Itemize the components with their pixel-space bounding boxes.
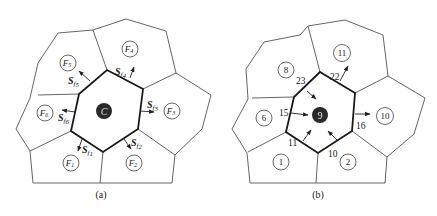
mesh-outer-boundary: [16, 19, 211, 183]
svg-text:1: 1: [279, 157, 284, 167]
svg-text:11: 11: [288, 138, 297, 148]
panel-a: C F1 F2 F3 F4 F5 F6 Sf1: [16, 19, 211, 201]
svg-text:9: 9: [318, 110, 323, 121]
svg-text:Sf6: Sf6: [58, 112, 70, 126]
face-vector-s-f4: Sf4: [115, 66, 134, 80]
face-vector-s-f1: Sf1: [78, 139, 93, 158]
neighbor-f3: F3: [164, 103, 180, 119]
neighbor-2: 2: [340, 154, 356, 170]
neighbor-11: 11: [334, 45, 351, 62]
caption-b: (b): [312, 189, 324, 201]
svg-text:C: C: [101, 106, 108, 117]
face-vector-s-f3: Sf3: [140, 99, 159, 113]
caption-a: (a): [95, 189, 106, 201]
neighbor-f1: F1: [63, 155, 79, 171]
svg-text:16: 16: [356, 121, 366, 131]
svg-text:Sf5: Sf5: [68, 75, 80, 89]
svg-text:8: 8: [284, 65, 289, 75]
svg-text:10: 10: [381, 111, 391, 121]
face-arrow-15: 15: [279, 108, 308, 118]
svg-text:6: 6: [262, 113, 267, 123]
svg-text:23: 23: [296, 76, 306, 86]
face-arrow-16: 16: [355, 114, 370, 131]
neighbor-1: 1: [273, 154, 289, 170]
neighbor-f2: F2: [126, 155, 142, 171]
face-vector-s-f2: Sf2: [124, 137, 143, 151]
center-node-9: 9: [312, 107, 328, 123]
face-arrow-22: 22: [330, 66, 348, 82]
panel-b: 9 1 2 10 11 8 6 11: [232, 20, 425, 201]
neighbor-6: 6: [256, 110, 272, 126]
svg-text:Sf4: Sf4: [115, 66, 127, 80]
neighbor-f5: F5: [60, 55, 76, 71]
mesh-internal-edges-b: [248, 26, 388, 183]
svg-text:10: 10: [328, 149, 338, 159]
svg-text:11: 11: [338, 48, 347, 58]
neighbor-f4: F4: [122, 41, 138, 57]
neighbor-f6: F6: [37, 105, 53, 121]
svg-text:Sf3: Sf3: [147, 99, 159, 113]
svg-text:22: 22: [330, 72, 340, 82]
svg-text:15: 15: [279, 108, 289, 118]
neighbor-10: 10: [377, 108, 394, 125]
neighbor-8: 8: [278, 62, 294, 78]
svg-text:Sf2: Sf2: [131, 137, 143, 151]
svg-text:Sf1: Sf1: [82, 144, 93, 158]
svg-text:2: 2: [346, 157, 351, 167]
center-node-c: C: [96, 103, 112, 119]
